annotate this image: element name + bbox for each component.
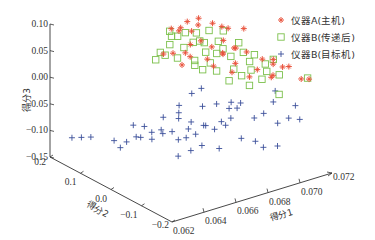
data-point-asterisk	[179, 62, 185, 68]
data-point-square	[182, 29, 188, 35]
x-tick-mark	[299, 179, 300, 183]
data-point-plus	[149, 136, 155, 142]
data-point-plus	[169, 129, 175, 135]
data-point-square	[192, 62, 198, 68]
data-point-plus	[175, 153, 181, 159]
z-tick-label: 0.10	[31, 19, 48, 29]
data-point-asterisk	[209, 44, 215, 50]
data-point-plus	[189, 90, 195, 96]
data-point-square	[174, 33, 180, 39]
data-point-asterisk	[286, 64, 292, 70]
data-point-plus	[78, 134, 84, 140]
z-tick-mark	[50, 104, 54, 105]
data-point-asterisk	[210, 20, 216, 26]
data-point-asterisk	[184, 19, 190, 25]
data-point-plus	[200, 103, 206, 109]
data-point-square	[264, 68, 270, 74]
data-point-plus	[238, 100, 244, 106]
data-point-plus	[193, 131, 199, 137]
z-tick-label: 0.00	[31, 72, 48, 82]
data-point-plus	[160, 114, 166, 120]
data-point-square	[276, 72, 282, 78]
x-tick-label: 0.070	[301, 187, 323, 197]
data-point-square	[167, 41, 173, 47]
data-point-plus	[141, 123, 147, 129]
data-point-asterisk	[254, 67, 260, 73]
y-tick-label: 0.0	[95, 194, 107, 204]
legend-label: 仪器A(主机)	[291, 15, 345, 26]
data-point-square	[201, 39, 207, 45]
data-point-plus	[199, 143, 205, 149]
data-point-asterisk	[270, 56, 276, 62]
data-point-plus	[176, 102, 182, 108]
data-point-asterisk	[168, 26, 174, 32]
data-point-plus	[286, 115, 292, 121]
data-point-square	[251, 52, 257, 58]
data-point-asterisk	[259, 56, 265, 62]
data-point-plus	[238, 135, 244, 141]
legend-marker-asterisk-icon	[278, 17, 284, 23]
x-tick-mark	[235, 198, 236, 202]
data-point-plus	[111, 138, 117, 144]
legend: 仪器A(主机)仪器B(传递后)仪器B(目标机)	[278, 15, 355, 60]
data-point-plus	[130, 122, 136, 128]
data-point-square	[215, 38, 221, 44]
y-tick-label: 0.1	[65, 177, 77, 187]
legend-label: 仪器B(传递后)	[291, 32, 355, 43]
data-point-square	[168, 33, 174, 39]
data-point-asterisk	[211, 63, 217, 69]
data-point-plus	[158, 127, 164, 133]
x-tick-mark	[267, 189, 268, 193]
z-tick-label: −0.10	[26, 125, 48, 135]
x-tick-label: 0.068	[269, 197, 291, 207]
data-point-plus	[69, 135, 75, 141]
data-point-plus	[216, 146, 222, 152]
data-point-plus	[226, 105, 232, 111]
data-point-square	[181, 44, 187, 50]
data-point-plus	[198, 85, 204, 91]
data-point-plus	[251, 115, 257, 121]
data-point-plus	[223, 122, 229, 128]
data-point-plus	[270, 99, 276, 105]
data-point-square	[228, 53, 234, 59]
data-point-square	[174, 55, 180, 61]
z-tick-mark	[50, 51, 54, 52]
y-tick-label: 0.2	[34, 157, 46, 167]
x-axis-label: 得分1	[268, 206, 294, 223]
x-tick-label: 0.066	[237, 206, 259, 216]
x-tick-mark	[203, 208, 204, 212]
data-point-plus	[234, 105, 240, 111]
data-point-plus	[275, 120, 281, 126]
z-tick-mark	[50, 77, 54, 78]
data-point-plus	[292, 103, 298, 109]
z-tick-mark	[50, 130, 54, 131]
data-point-asterisk	[225, 25, 231, 31]
data-point-asterisk	[244, 49, 250, 55]
data-point-asterisk	[196, 15, 202, 21]
data-points	[69, 15, 312, 159]
data-point-plus	[185, 126, 191, 132]
data-point-plus	[188, 119, 194, 125]
x-tick-label: 0.072	[333, 172, 355, 182]
data-point-asterisk	[232, 60, 238, 66]
x-tick-label: 0.062	[173, 226, 195, 236]
data-point-plus	[176, 110, 182, 116]
y-tick-mark	[81, 171, 84, 173]
data-point-plus	[275, 143, 281, 149]
data-point-asterisk	[170, 50, 176, 56]
data-point-asterisk	[187, 42, 193, 48]
z-tick-label: 0.05	[31, 46, 48, 56]
data-point-asterisk	[298, 76, 304, 82]
data-point-plus	[214, 101, 220, 107]
data-point-plus	[149, 129, 155, 135]
data-point-asterisk	[189, 28, 195, 34]
data-point-square	[199, 66, 205, 72]
data-point-square	[203, 49, 209, 55]
data-point-plus	[88, 134, 94, 140]
data-point-plus	[133, 134, 139, 140]
data-point-asterisk	[246, 74, 252, 80]
data-point-asterisk	[187, 54, 193, 60]
data-point-plus	[228, 115, 234, 121]
data-point-square	[246, 58, 252, 64]
z-tick-mark	[50, 157, 54, 158]
